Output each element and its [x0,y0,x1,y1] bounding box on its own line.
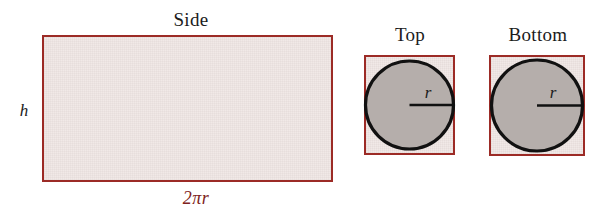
paper-grain-overlay [44,37,331,180]
side-rectangle [42,35,333,182]
bottom-circle-graphic [489,55,585,156]
circumference-dimension-label: 2πr [170,189,222,207]
cylinder-net-figure: Side h 2πr Top r Bottom r [0,0,611,221]
side-panel-title: Side [162,10,220,29]
bottom-disc-panel [489,55,585,156]
bottom-panel-title: Bottom [494,25,582,44]
top-disc-panel [364,55,455,155]
height-dimension-label: h [17,102,31,119]
top-panel-title: Top [380,25,440,44]
bottom-radius-label: r [548,84,558,101]
top-circle-graphic [364,55,455,155]
top-radius-label: r [423,84,433,101]
